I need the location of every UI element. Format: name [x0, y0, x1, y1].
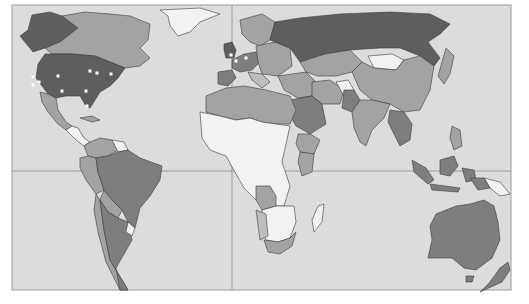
location-marker[interactable]: US Florida	[86, 105, 89, 108]
location-marker[interactable]: US Northeast	[96, 72, 99, 75]
location-marker[interactable]: US Southeast	[110, 73, 113, 76]
location-marker[interactable]: US West Coast 3	[38, 81, 41, 84]
location-marker[interactable]: US Great Lakes	[89, 70, 92, 73]
location-marker[interactable]: Paris	[235, 60, 238, 63]
location-marker[interactable]: US Mountain	[57, 75, 60, 78]
location-marker[interactable]: Germany	[245, 57, 248, 60]
location-marker[interactable]: US South	[61, 90, 64, 93]
world-map: US West Coast 1US West Coast 2US West Co…	[0, 0, 529, 304]
location-marker[interactable]: London	[230, 54, 233, 57]
location-marker[interactable]: US West Coast 1	[32, 76, 35, 79]
location-marker[interactable]: US West Coast 2	[32, 84, 35, 87]
location-marker[interactable]: US Midwest	[85, 90, 88, 93]
